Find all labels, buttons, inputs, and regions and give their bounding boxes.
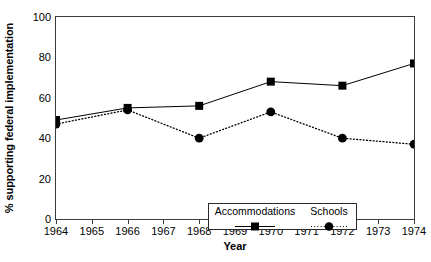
legend-label-accommodations: Accommodations bbox=[211, 205, 299, 218]
data-point bbox=[338, 134, 347, 143]
legend-sample-accommodations bbox=[211, 218, 299, 229]
legend-sample-schools bbox=[303, 218, 355, 229]
data-point bbox=[123, 106, 132, 115]
data-point bbox=[338, 82, 346, 90]
data-point bbox=[267, 78, 275, 86]
data-point bbox=[410, 59, 414, 67]
x-tick-label: 1973 bbox=[358, 225, 398, 237]
legend-item-accommodations: Accommodations bbox=[211, 205, 299, 230]
x-tick-label: 1965 bbox=[72, 225, 112, 237]
x-tick-label: 1974 bbox=[394, 225, 431, 237]
x-tick-label: 1966 bbox=[108, 225, 148, 237]
series-lines bbox=[56, 17, 414, 219]
chart-legend: Accommodations Schools bbox=[208, 203, 357, 230]
series-line-schools bbox=[56, 110, 414, 144]
data-point bbox=[195, 102, 203, 110]
plot-area: Accommodations Schools bbox=[55, 16, 415, 220]
x-tick-label: 1967 bbox=[143, 225, 183, 237]
series-line-accommodations bbox=[56, 63, 414, 120]
data-point bbox=[410, 140, 414, 149]
x-tick-label: 1964 bbox=[36, 225, 76, 237]
legend-label-schools: Schools bbox=[303, 205, 355, 218]
data-point bbox=[195, 134, 204, 143]
data-point bbox=[266, 108, 275, 117]
legend-item-schools: Schools bbox=[303, 205, 355, 230]
